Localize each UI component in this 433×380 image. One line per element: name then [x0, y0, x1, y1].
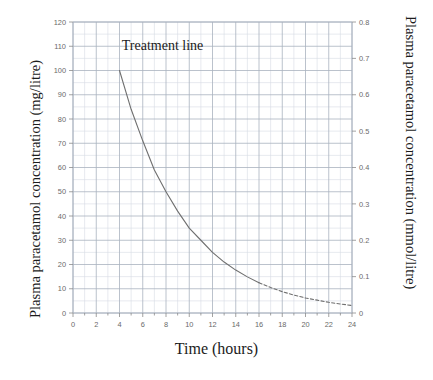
svg-text:110: 110: [54, 42, 66, 51]
treatment-line-annotation: Treatment line: [122, 38, 204, 53]
chart-page: Plasma paracetamol concentration (mg/lit…: [0, 0, 433, 380]
svg-text:20: 20: [58, 260, 66, 269]
svg-text:0.7: 0.7: [359, 54, 369, 63]
x-axis-ticks: [73, 313, 352, 317]
svg-text:10: 10: [58, 284, 66, 293]
chart-svg: 0102030405060708090100110120 00.10.20.30…: [0, 0, 433, 380]
svg-text:0: 0: [62, 309, 66, 318]
left-axis-tick-labels: 0102030405060708090100110120: [54, 18, 66, 318]
svg-text:80: 80: [58, 115, 66, 124]
svg-text:50: 50: [58, 187, 66, 196]
svg-text:2: 2: [94, 320, 98, 329]
left-axis-ticks: [69, 22, 73, 313]
svg-text:0.4: 0.4: [359, 163, 369, 172]
svg-text:6: 6: [141, 320, 145, 329]
svg-text:60: 60: [58, 163, 66, 172]
svg-text:18: 18: [278, 320, 286, 329]
major-gridlines: [73, 22, 352, 313]
svg-text:100: 100: [54, 66, 66, 75]
svg-text:20: 20: [301, 320, 309, 329]
svg-text:70: 70: [58, 139, 66, 148]
svg-text:0.8: 0.8: [359, 18, 369, 27]
svg-text:40: 40: [58, 212, 66, 221]
svg-text:4: 4: [117, 320, 121, 329]
svg-text:120: 120: [54, 18, 66, 27]
svg-text:10: 10: [185, 320, 193, 329]
svg-text:24: 24: [348, 320, 356, 329]
svg-text:0: 0: [359, 309, 363, 318]
svg-text:14: 14: [232, 320, 240, 329]
svg-text:0.1: 0.1: [359, 272, 369, 281]
svg-text:22: 22: [325, 320, 333, 329]
svg-text:0: 0: [71, 320, 75, 329]
svg-text:30: 30: [58, 236, 66, 245]
plot-area: 0102030405060708090100110120 00.10.20.30…: [0, 0, 433, 380]
right-axis-ticks: [352, 22, 356, 313]
svg-text:0.5: 0.5: [359, 127, 369, 136]
svg-text:12: 12: [208, 320, 216, 329]
right-axis-tick-labels: 00.10.20.30.40.50.60.70.8: [359, 18, 369, 318]
chart-annotations: Treatment line: [122, 38, 204, 53]
svg-text:16: 16: [255, 320, 263, 329]
svg-text:90: 90: [58, 90, 66, 99]
svg-text:0.2: 0.2: [359, 236, 369, 245]
svg-text:0.6: 0.6: [359, 90, 369, 99]
svg-text:8: 8: [164, 320, 168, 329]
x-axis-tick-labels: 024681012141618202224: [71, 320, 356, 329]
svg-text:0.3: 0.3: [359, 200, 369, 209]
